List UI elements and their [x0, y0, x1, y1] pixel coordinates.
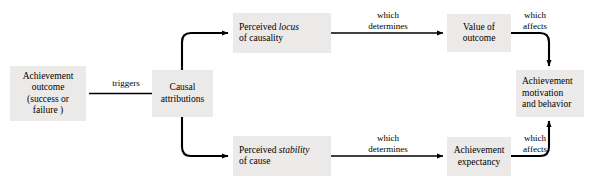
node-line: Achievement: [522, 76, 573, 88]
edge-causal-to-locus: [182, 33, 228, 70]
node-causal-attributions: Causal attributions: [152, 70, 213, 117]
edge-label-line: affects: [503, 144, 567, 155]
node-value-of-outcome: Value of outcome: [447, 14, 511, 52]
edge-label-line: which: [503, 10, 567, 21]
node-line: (success or: [27, 94, 69, 106]
node-perceived-stability: Perceived stability of cause: [233, 136, 331, 176]
node-achievement-expectancy: Achievement expectancy: [447, 137, 511, 176]
node-line: Achievement: [454, 145, 505, 157]
edge-causal-to-stability: [182, 117, 228, 156]
node-line: attributions: [161, 94, 204, 106]
edge-label-line: which: [340, 10, 436, 21]
edge-label-line: which: [340, 133, 436, 144]
edge-label-line: which: [503, 133, 567, 144]
edge-label-which-affects-top: which affects: [503, 10, 567, 31]
node-line: Value of: [463, 22, 495, 34]
node-line: outcome: [463, 33, 496, 45]
edge-label-which-determines-bottom: which determines: [340, 133, 436, 154]
edge-value-to-motivation: [511, 33, 549, 66]
edge-label-triggers: triggers: [95, 78, 157, 89]
node-line: and behavior: [522, 99, 571, 111]
node-line: expectancy: [458, 157, 501, 169]
edge-label-line: determines: [340, 21, 436, 32]
node-line: motivation: [522, 88, 563, 100]
node-achievement-outcome: Achievement outcome (success or failure …: [10, 66, 86, 121]
edge-label-line: determines: [340, 144, 436, 155]
edge-label-line: triggers: [95, 78, 157, 89]
node-line: outcome: [32, 82, 65, 94]
node-line: Perceived locus: [239, 22, 299, 34]
node-line: Perceived stability: [239, 145, 309, 157]
node-line: Achievement: [23, 71, 74, 83]
node-achievement-motivation: Achievement motivation and behavior: [516, 70, 584, 117]
node-line: of causality: [239, 33, 283, 45]
edge-label-which-affects-bottom: which affects: [503, 133, 567, 154]
edge-label-which-determines-top: which determines: [340, 10, 436, 31]
node-line: failure ): [33, 105, 63, 117]
node-line: of cause: [239, 156, 270, 168]
attribution-flowchart: Achievement outcome (success or failure …: [0, 0, 597, 190]
node-line: Causal: [170, 82, 196, 94]
node-perceived-locus: Perceived locus of causality: [233, 13, 331, 53]
edge-label-line: affects: [503, 21, 567, 32]
